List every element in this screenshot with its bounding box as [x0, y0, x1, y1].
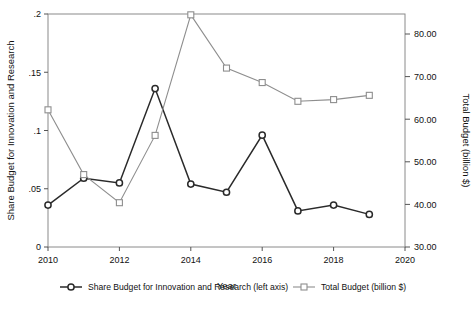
data-point [152, 132, 158, 138]
data-point [116, 180, 122, 186]
y-tick-label-right: 80.00 [414, 29, 437, 39]
series-2 [45, 12, 372, 206]
y-axis-title-right: Total Budget (billion $) [461, 94, 472, 188]
y-tick-label-right: 70.00 [414, 72, 437, 82]
series-layer [45, 12, 373, 218]
data-point [295, 208, 301, 214]
x-tick-label: 2012 [109, 255, 129, 265]
series-line [48, 89, 369, 215]
plot-border [48, 14, 405, 247]
legend-marker [301, 284, 307, 290]
y-axis-right: 30.0040.0050.0060.0070.0080.00 [405, 29, 437, 252]
y-axis-title-left: Share Budget for Innovation and Research [5, 40, 16, 220]
plot-frame [48, 14, 405, 247]
data-point [295, 98, 301, 104]
data-point [259, 132, 265, 138]
data-point [366, 92, 372, 98]
y-tick-label-right: 30.00 [414, 242, 437, 252]
data-point [331, 97, 337, 103]
data-point [366, 211, 372, 217]
x-tick-label: 2010 [38, 255, 58, 265]
data-point [152, 85, 158, 91]
data-point [224, 65, 230, 71]
y-tick-label-left: .15 [28, 68, 41, 78]
data-point [188, 181, 194, 187]
y-tick-label-left: .2 [33, 9, 41, 19]
x-tick-label: 2014 [181, 255, 201, 265]
x-tick-label: 2018 [324, 255, 344, 265]
legend-entry-1: Share Budget for Innovation and Research… [60, 282, 288, 292]
data-point [223, 189, 229, 195]
y-tick-label-right: 50.00 [414, 157, 437, 167]
legend-entry-2: Total Budget (billion $) [293, 282, 406, 292]
data-point [188, 12, 194, 18]
data-point [331, 202, 337, 208]
x-axis: 201020122014201620182020 [38, 247, 415, 265]
data-point [45, 107, 51, 113]
x-tick-label: 2016 [252, 255, 272, 265]
y-tick-label-right: 40.00 [414, 200, 437, 210]
y-tick-label-left: .05 [28, 184, 41, 194]
series-line [48, 15, 369, 203]
y-tick-label-left: .1 [33, 126, 41, 136]
y-tick-label-left: 0 [36, 242, 41, 252]
data-point [259, 80, 265, 86]
chart-container: 201020122014201620182020 0.05.1.15.2 30.… [0, 0, 473, 319]
data-point [116, 200, 122, 206]
y-tick-label-right: 60.00 [414, 115, 437, 125]
legend-label: Total Budget (billion $) [321, 282, 406, 292]
x-tick-label: 2020 [395, 255, 415, 265]
legend-marker [68, 284, 74, 290]
y-axis-left: 0.05.1.15.2 [28, 9, 48, 252]
series-1 [45, 85, 373, 217]
chart-legend: Share Budget for Innovation and Research… [60, 282, 406, 292]
line-chart: 201020122014201620182020 0.05.1.15.2 30.… [0, 0, 473, 319]
data-point [81, 172, 87, 178]
data-point [45, 202, 51, 208]
legend-label: Share Budget for Innovation and Research… [88, 282, 288, 292]
